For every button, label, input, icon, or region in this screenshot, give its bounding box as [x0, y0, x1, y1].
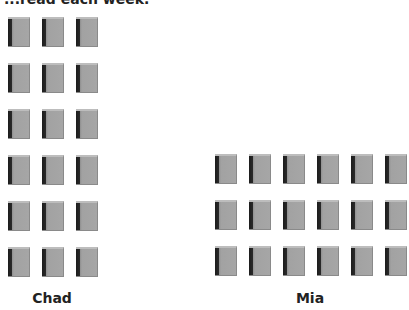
book-icon — [249, 154, 271, 184]
book-icon — [42, 247, 64, 277]
book-icon — [385, 154, 407, 184]
book-icon — [8, 247, 30, 277]
book-icon — [215, 246, 237, 276]
book-icon — [8, 109, 30, 139]
book-icon — [351, 200, 373, 230]
book-icon — [42, 109, 64, 139]
book-icon — [76, 63, 98, 93]
book-icon — [283, 200, 305, 230]
book-icon — [317, 154, 339, 184]
book-icon — [351, 154, 373, 184]
book-icon — [8, 63, 30, 93]
book-icon — [76, 109, 98, 139]
book-icon — [76, 247, 98, 277]
book-icon — [283, 154, 305, 184]
book-icon — [215, 200, 237, 230]
label-mia: Mia — [296, 290, 324, 306]
book-icon — [42, 155, 64, 185]
book-icon — [249, 246, 271, 276]
title-text: ...read each week. — [4, 0, 149, 7]
book-icon — [76, 155, 98, 185]
book-icon — [8, 155, 30, 185]
book-icon — [385, 246, 407, 276]
book-icon — [317, 246, 339, 276]
label-chad: Chad — [32, 290, 72, 306]
book-icon — [76, 17, 98, 47]
book-icon — [76, 201, 98, 231]
book-icon — [249, 200, 271, 230]
book-icon — [42, 201, 64, 231]
book-icon — [351, 246, 373, 276]
book-icon — [42, 63, 64, 93]
book-icon — [8, 17, 30, 47]
book-icon — [317, 200, 339, 230]
book-icon — [8, 201, 30, 231]
book-icon — [42, 17, 64, 47]
book-icon — [283, 246, 305, 276]
book-icon — [215, 154, 237, 184]
book-icon — [385, 200, 407, 230]
